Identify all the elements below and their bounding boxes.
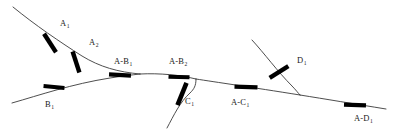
label-b1: B1 bbox=[45, 100, 54, 109]
label-base: A bbox=[60, 18, 66, 28]
label-c1: C1 bbox=[185, 97, 194, 106]
label-subscript: 1 bbox=[51, 104, 54, 110]
label-subscript: 2 bbox=[96, 42, 99, 48]
curve-a-d bbox=[300, 95, 386, 109]
tick-d1 bbox=[270, 66, 289, 78]
label-base: A-C bbox=[231, 97, 246, 107]
label-ad1: A-D1 bbox=[354, 114, 373, 123]
label-base: A-D bbox=[354, 113, 370, 123]
label-d1: D1 bbox=[297, 56, 306, 65]
label-ab2: A-B2 bbox=[169, 57, 187, 66]
tick-ad1 bbox=[344, 105, 366, 106]
label-base: C bbox=[185, 96, 191, 106]
tick-ac1 bbox=[235, 87, 258, 88]
label-base: A-B bbox=[114, 56, 129, 66]
label-ac1: A-C1 bbox=[231, 98, 249, 107]
label-subscript: 1 bbox=[191, 101, 194, 107]
curve-b bbox=[12, 74, 140, 103]
label-subscript: 2 bbox=[185, 61, 188, 67]
label-a1: A1 bbox=[60, 19, 69, 28]
tick-b1 bbox=[44, 86, 65, 88]
tick-ab2 bbox=[169, 77, 190, 78]
label-subscript: 1 bbox=[67, 23, 70, 29]
label-base: A-B bbox=[169, 56, 184, 66]
label-subscript: 1 bbox=[247, 102, 250, 108]
label-base: D bbox=[297, 55, 303, 65]
label-subscript: 1 bbox=[130, 61, 133, 67]
tick-a2 bbox=[73, 52, 80, 73]
label-base: B bbox=[45, 99, 51, 109]
label-ab1: A-B1 bbox=[114, 57, 132, 66]
tick-ab1 bbox=[109, 74, 131, 75]
label-base: A bbox=[89, 37, 95, 47]
label-a2: A2 bbox=[89, 38, 98, 47]
figure-canvas: A1A2B1A-B1A-B2C1A-C1D1A-D1 bbox=[0, 0, 395, 133]
curve-d bbox=[252, 40, 300, 95]
label-subscript: 1 bbox=[370, 118, 373, 124]
label-subscript: 1 bbox=[304, 60, 307, 66]
tick-a1 bbox=[44, 34, 56, 52]
